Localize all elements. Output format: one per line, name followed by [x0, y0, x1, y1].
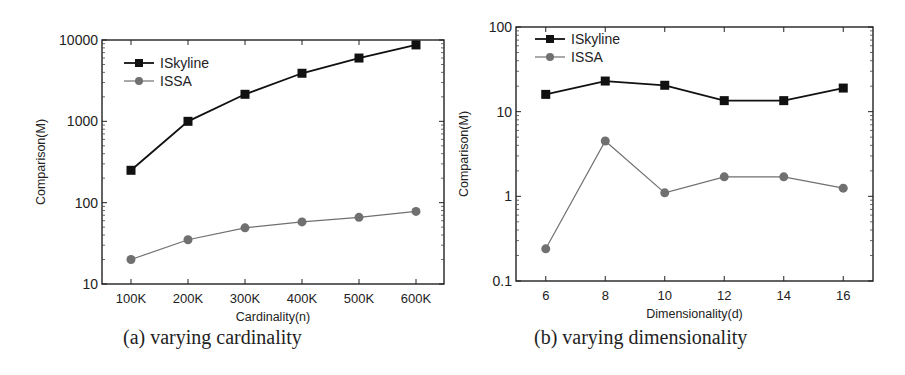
- axes: 10100100010000100K200K300K400K500K600KCa…: [34, 32, 444, 324]
- circle-marker: [412, 207, 421, 216]
- x-tick-label: 10: [658, 288, 672, 303]
- figure-b-varying-dimensionality: 0.11101006810121416Dimensionality(d)Comp…: [452, 0, 904, 375]
- square-marker: [839, 84, 848, 93]
- y-tick-label: 1000: [67, 113, 98, 129]
- y-axis-label: Comparison(M): [457, 111, 471, 197]
- x-tick-label: 300K: [230, 291, 261, 306]
- x-tick-label: 400K: [287, 291, 318, 306]
- x-tick-label: 16: [836, 288, 850, 303]
- caption-b: (b) varying dimensionality: [534, 326, 747, 349]
- y-tick-label: 10: [82, 276, 98, 292]
- x-tick-label: 6: [542, 288, 549, 303]
- square-marker: [355, 54, 364, 63]
- figure-a-varying-cardinality: 10100100010000100K200K300K400K500K600KCa…: [0, 0, 452, 375]
- svg-text:ISkyline: ISkyline: [160, 55, 209, 71]
- caption-a: (a) varying cardinality: [123, 326, 302, 349]
- y-tick-label: 0.1: [493, 273, 513, 289]
- x-tick-label: 200K: [173, 291, 204, 306]
- circle-marker: [298, 217, 307, 226]
- x-tick-label: 12: [717, 288, 731, 303]
- square-marker: [412, 40, 421, 49]
- series-iskyline: [541, 77, 848, 106]
- circle-marker: [184, 235, 193, 244]
- x-tick-label: 14: [777, 288, 791, 303]
- axes: 0.11101006810121416Dimensionality(d)Comp…: [457, 19, 873, 321]
- square-marker: [241, 90, 250, 99]
- circle-marker: [601, 137, 610, 146]
- y-tick-label: 1: [504, 188, 512, 204]
- circle-marker: [779, 172, 788, 181]
- x-tick-label: 100K: [116, 291, 147, 306]
- x-axis-label: Cardinality(n): [236, 310, 310, 324]
- legend-entry-iskyline: ISkyline: [124, 55, 209, 71]
- square-marker: [184, 117, 193, 126]
- series-issa: [541, 137, 848, 254]
- circle-marker: [839, 184, 848, 193]
- x-tick-label: 500K: [344, 291, 375, 306]
- y-tick-label: 100: [489, 19, 513, 35]
- x-tick-label: 600K: [401, 291, 432, 306]
- square-marker: [660, 81, 669, 90]
- legend-entry-issa: ISSA: [535, 49, 604, 65]
- series-issa: [127, 207, 421, 264]
- svg-text:ISkyline: ISkyline: [571, 31, 620, 47]
- circle-marker: [127, 255, 136, 264]
- chart-b-plot: 0.11101006810121416Dimensionality(d)Comp…: [452, 0, 904, 330]
- svg-text:ISSA: ISSA: [571, 49, 604, 65]
- square-marker: [779, 96, 788, 105]
- square-marker: [541, 90, 550, 99]
- svg-text:ISSA: ISSA: [160, 73, 193, 89]
- circle-marker: [720, 172, 729, 181]
- square-marker: [720, 96, 729, 105]
- legend-entry-iskyline: ISkyline: [535, 31, 620, 47]
- y-tick-label: 100: [75, 195, 99, 211]
- legend-entry-issa: ISSA: [124, 73, 193, 89]
- chart-a-plot: 10100100010000100K200K300K400K500K600KCa…: [0, 0, 452, 330]
- circle-marker: [355, 213, 364, 222]
- x-tick-label: 8: [602, 288, 609, 303]
- y-tick-label: 10: [496, 104, 512, 120]
- y-tick-label: 10000: [59, 32, 98, 48]
- square-marker: [601, 77, 610, 86]
- circle-marker: [660, 188, 669, 197]
- circle-marker: [241, 223, 250, 232]
- x-axis-label: Dimensionality(d): [646, 307, 743, 321]
- square-marker: [127, 166, 136, 175]
- y-axis-label: Comparison(M): [34, 119, 48, 205]
- square-marker: [298, 69, 307, 78]
- circle-marker: [541, 244, 550, 253]
